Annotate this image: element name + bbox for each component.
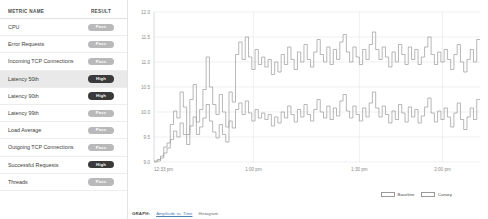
- graph-option-amplitude-vs-time[interactable]: Amplitude vs. Time: [156, 211, 192, 216]
- y-axis-tick-label: 9.5: [144, 135, 151, 140]
- metrics-panel: METRIC NAME RESULT CPUPassError Requests…: [0, 0, 128, 219]
- y-axis-tick-label: 9.0: [144, 160, 151, 165]
- metric-name-cell: CPU: [0, 19, 83, 36]
- table-row[interactable]: ThreadsPass: [0, 173, 127, 190]
- metrics-table-body: CPUPassError RequestsPassIncoming TCP Co…: [0, 19, 127, 191]
- table-row[interactable]: Successful RequestsHigh: [0, 156, 127, 173]
- result-cell: Pass: [83, 104, 127, 121]
- result-cell: Pass: [83, 36, 127, 53]
- metrics-table: METRIC NAME RESULT CPUPassError Requests…: [0, 9, 127, 191]
- metrics-table-head: METRIC NAME RESULT: [0, 9, 127, 19]
- metric-name-cell: Threads: [0, 173, 83, 190]
- result-cell: Pass: [83, 173, 127, 190]
- y-axis-tick-label: 10.0: [141, 110, 150, 115]
- x-axis-tick-label: 1:00 pm: [245, 167, 262, 172]
- legend-label-canary: Canary: [438, 192, 452, 197]
- metric-name-cell: Incoming TCP Connections: [0, 53, 83, 70]
- status-badge: Pass: [88, 144, 114, 151]
- x-axis-tick-label: 12:33 pm: [154, 167, 173, 172]
- column-header-result: RESULT: [83, 9, 127, 19]
- status-badge: Pass: [88, 110, 114, 117]
- result-cell: High: [83, 87, 127, 104]
- chart-legend: Baseline Canary: [381, 192, 452, 197]
- table-header-row: METRIC NAME RESULT: [0, 9, 127, 19]
- table-row[interactable]: Error RequestsPass: [0, 36, 127, 53]
- chart-plot-area[interactable]: 12.011.511.010.510.09.59.012:33 pm1:00 p…: [132, 6, 486, 178]
- legend-item-canary[interactable]: Canary: [421, 192, 452, 197]
- y-axis-tick-label: 11.0: [141, 60, 150, 65]
- status-badge: High: [88, 161, 114, 168]
- x-axis-tick-label: 2:00 pm: [434, 167, 451, 172]
- table-row[interactable]: Outgoing TCP ConnectionsPass: [0, 139, 127, 156]
- baseline-swatch-icon: [381, 192, 395, 197]
- status-badge: Pass: [88, 58, 114, 65]
- metric-name-cell: Error Requests: [0, 36, 83, 53]
- series-line-baseline: [154, 32, 480, 161]
- result-cell: Pass: [83, 19, 127, 36]
- y-axis-tick-label: 10.5: [141, 85, 150, 90]
- metric-name-cell: Successful Requests: [0, 156, 83, 173]
- result-cell: Pass: [83, 53, 127, 70]
- graph-option-histogram[interactable]: Histogram: [198, 211, 218, 216]
- metric-name-cell: Latency 50th: [0, 70, 83, 87]
- status-badge: Pass: [88, 41, 114, 48]
- metric-name-cell: Latency 99th: [0, 104, 83, 121]
- status-badge: High: [88, 92, 114, 99]
- x-axis-tick-label: 1:30 pm: [351, 167, 368, 172]
- y-axis-tick-label: 11.5: [141, 35, 150, 40]
- metrics-comparison-view: METRIC NAME RESULT CPUPassError Requests…: [0, 0, 488, 219]
- table-row[interactable]: Latency 50thHigh: [0, 70, 127, 87]
- column-header-metric-name: METRIC NAME: [0, 9, 83, 19]
- metric-name-cell: Load Average: [0, 122, 83, 139]
- metric-name-cell: Latency 90th: [0, 87, 83, 104]
- table-row[interactable]: Incoming TCP ConnectionsPass: [0, 53, 127, 70]
- result-cell: Pass: [83, 122, 127, 139]
- status-badge: Pass: [88, 127, 114, 134]
- legend-label-baseline: Baseline: [398, 192, 415, 197]
- table-row[interactable]: Latency 90thHigh: [0, 87, 127, 104]
- graph-type-selector: GRAPH: Amplitude vs. Time Histogram: [132, 211, 218, 216]
- result-cell: High: [83, 156, 127, 173]
- status-badge: Pass: [88, 178, 114, 185]
- graph-label: GRAPH:: [132, 211, 150, 216]
- y-axis-tick-label: 12.0: [141, 10, 150, 15]
- status-badge: High: [88, 75, 114, 82]
- table-row[interactable]: Load AveragePass: [0, 122, 127, 139]
- legend-item-baseline[interactable]: Baseline: [381, 192, 414, 197]
- chart-panel: 12.011.511.010.510.09.59.012:33 pm1:00 p…: [128, 0, 488, 219]
- table-row[interactable]: CPUPass: [0, 19, 127, 36]
- table-row[interactable]: Latency 99thPass: [0, 104, 127, 121]
- result-cell: Pass: [83, 139, 127, 156]
- result-cell: High: [83, 70, 127, 87]
- status-badge: Pass: [88, 24, 114, 31]
- timeseries-chart[interactable]: 12.011.511.010.510.09.59.012:33 pm1:00 p…: [132, 6, 486, 178]
- metric-name-cell: Outgoing TCP Connections: [0, 139, 83, 156]
- canary-swatch-icon: [421, 192, 435, 197]
